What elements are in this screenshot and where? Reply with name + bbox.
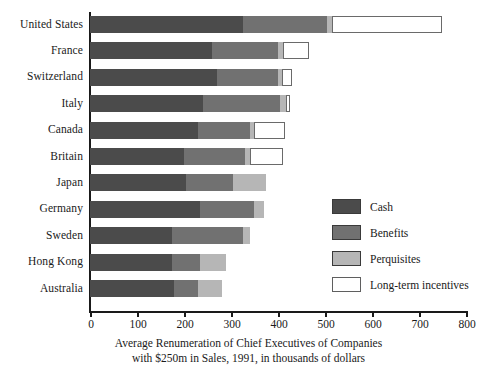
chart-legend: CashBenefitsPerquisitesLong-term incenti… <box>332 196 469 300</box>
stacked-bar <box>90 254 226 271</box>
legend-item: Benefits <box>332 222 469 243</box>
x-axis-tick-label: 100 <box>129 318 146 330</box>
bar-segment-benefits <box>172 254 200 271</box>
stacked-bar <box>90 42 309 59</box>
bar-row: France <box>90 42 466 59</box>
stacked-bar <box>90 201 264 218</box>
stacked-bar <box>90 16 442 33</box>
legend-swatch-icon <box>332 199 361 214</box>
legend-label: Perquisites <box>370 253 420 265</box>
bar-segment-cash <box>90 122 198 139</box>
stacked-bar <box>90 69 292 86</box>
x-axis-tick-label: 0 <box>88 318 94 330</box>
bar-segment-long-term-incentives <box>282 69 292 86</box>
category-label: United States <box>20 19 83 31</box>
stacked-bar <box>90 280 222 297</box>
bar-segment-benefits <box>184 148 245 165</box>
bar-segment-benefits <box>186 174 233 191</box>
stacked-bar-chart: United StatesFranceSwitzerlandItalyCanad… <box>0 0 497 372</box>
legend-label: Benefits <box>370 227 408 239</box>
bar-row: Canada <box>90 122 466 139</box>
bar-segment-benefits <box>203 95 281 112</box>
chart-caption: Average Renumeration of Chief Executives… <box>0 336 497 366</box>
x-axis-tick <box>231 311 233 317</box>
x-axis-tick <box>278 311 280 317</box>
bar-segment-benefits <box>243 16 328 33</box>
bar-segment-benefits <box>198 122 250 139</box>
stacked-bar <box>90 95 290 112</box>
x-axis-tick-label: 600 <box>364 318 381 330</box>
stacked-bar <box>90 122 285 139</box>
x-axis-tick-label: 200 <box>176 318 193 330</box>
bar-row: Italy <box>90 95 466 112</box>
bar-segment-perquisites <box>198 280 222 297</box>
bar-row: Britain <box>90 148 466 165</box>
bar-segment-benefits <box>212 42 278 59</box>
bar-segment-long-term-incentives <box>286 95 290 112</box>
bar-segment-cash <box>90 174 186 191</box>
category-label: Germany <box>40 204 84 216</box>
category-label: France <box>51 45 83 57</box>
bar-segment-benefits <box>174 280 198 297</box>
legend-swatch-icon <box>332 251 361 266</box>
x-axis-tick <box>184 311 186 317</box>
bar-segment-cash <box>90 280 174 297</box>
legend-item: Long-term incentives <box>332 274 469 295</box>
bar-segment-cash <box>90 69 217 86</box>
bar-row: United States <box>90 16 466 33</box>
x-axis-tick-label: 800 <box>458 318 475 330</box>
bar-segment-cash <box>90 201 200 218</box>
x-axis-tick <box>90 311 92 317</box>
caption-line-2: with $250m in Sales, 1991, in thousands … <box>0 351 497 366</box>
legend-item: Cash <box>332 196 469 217</box>
legend-label: Long-term incentives <box>370 279 469 291</box>
category-label: Hong Kong <box>28 256 83 268</box>
bar-segment-perquisites <box>254 201 263 218</box>
category-label: Canada <box>48 124 83 136</box>
x-axis-tick-label: 700 <box>411 318 428 330</box>
bar-segment-long-term-incentives <box>283 42 309 59</box>
x-axis-tick <box>372 311 374 317</box>
stacked-bar <box>90 148 283 165</box>
bar-segment-benefits <box>200 201 254 218</box>
bar-segment-cash <box>90 254 172 271</box>
legend-swatch-icon <box>332 277 361 292</box>
bar-segment-perquisites <box>233 174 266 191</box>
bar-segment-long-term-incentives <box>332 16 442 33</box>
x-axis-tick-label: 500 <box>317 318 334 330</box>
stacked-bar <box>90 227 250 244</box>
bar-segment-long-term-incentives <box>250 148 283 165</box>
category-label: Britain <box>50 151 83 163</box>
x-axis-tick <box>325 311 327 317</box>
category-label: Switzerland <box>27 72 83 84</box>
bar-row: Japan <box>90 174 466 191</box>
x-axis-tick <box>466 311 468 317</box>
bar-segment-cash <box>90 42 212 59</box>
category-label: Australia <box>40 283 83 295</box>
x-axis-tick-label: 400 <box>270 318 287 330</box>
bar-segment-perquisites <box>200 254 226 271</box>
category-label: Sweden <box>46 230 83 242</box>
bar-segment-cash <box>90 16 243 33</box>
bar-segment-perquisites <box>243 227 250 244</box>
bar-segment-cash <box>90 95 203 112</box>
bar-row: Switzerland <box>90 69 466 86</box>
legend-label: Cash <box>370 201 393 213</box>
bar-segment-cash <box>90 227 172 244</box>
x-axis-tick <box>419 311 421 317</box>
category-label: Japan <box>56 177 83 189</box>
legend-item: Perquisites <box>332 248 469 269</box>
bar-segment-benefits <box>172 227 243 244</box>
stacked-bar <box>90 174 266 191</box>
caption-line-1: Average Renumeration of Chief Executives… <box>0 336 497 351</box>
bar-segment-benefits <box>217 69 278 86</box>
x-axis-tick-label: 300 <box>223 318 240 330</box>
bar-segment-cash <box>90 148 184 165</box>
category-label: Italy <box>61 98 83 110</box>
bar-segment-long-term-incentives <box>254 122 285 139</box>
x-axis-tick <box>137 311 139 317</box>
legend-swatch-icon <box>332 225 361 240</box>
